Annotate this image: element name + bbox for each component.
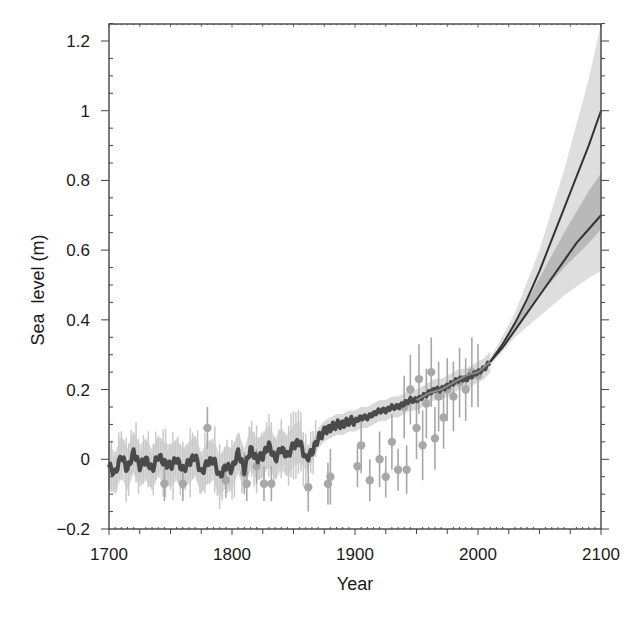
y-tick-label: 0.6 xyxy=(66,241,90,260)
proxy-point xyxy=(462,385,470,393)
y-tick-label: 1.2 xyxy=(66,32,90,51)
y-tick-label: 0.4 xyxy=(66,311,90,330)
y-tick-label: 0.2 xyxy=(66,381,90,400)
proxy-point xyxy=(449,392,457,400)
plot-area xyxy=(109,24,601,512)
proxy-point xyxy=(382,473,390,481)
y-tick-label: −0.2 xyxy=(56,520,90,539)
proxy-point xyxy=(357,441,365,449)
proxy-point xyxy=(427,368,435,376)
y-tick-label: 0 xyxy=(81,450,90,469)
y-tick-label: 1 xyxy=(81,102,90,121)
proxy-point xyxy=(260,479,268,487)
proxy-point xyxy=(243,479,251,487)
x-axis-title: Year xyxy=(337,574,373,594)
proxy-point xyxy=(366,476,374,484)
x-tick-label: 1900 xyxy=(336,545,374,564)
proxy-point xyxy=(394,466,402,474)
y-axis-title: Sea level (m) xyxy=(28,234,48,345)
proxy-point xyxy=(203,424,211,432)
proxy-point xyxy=(388,438,396,446)
proxy-point xyxy=(406,385,414,393)
proxy-point xyxy=(160,479,168,487)
y-tick-label: 0.8 xyxy=(66,171,90,190)
x-tick-label: 2000 xyxy=(459,545,497,564)
proxy-point xyxy=(412,424,420,432)
proxy-point xyxy=(179,479,187,487)
proxy-point xyxy=(326,473,334,481)
proxy-point xyxy=(415,375,423,383)
proxy-point xyxy=(418,441,426,449)
proxy-point xyxy=(431,434,439,442)
projection-outer-band xyxy=(490,24,601,366)
proxy-point xyxy=(267,479,275,487)
x-tick-label: 1700 xyxy=(90,545,128,564)
proxy-point xyxy=(422,399,430,407)
x-tick-label: 1800 xyxy=(213,545,251,564)
proxy-point xyxy=(375,455,383,463)
sea-level-chart: 17001800190020002100−0.200.20.40.60.811.… xyxy=(0,0,640,619)
proxy-point xyxy=(434,392,442,400)
proxy-point xyxy=(304,483,312,491)
x-tick-label: 2100 xyxy=(582,545,620,564)
proxy-point xyxy=(402,466,410,474)
